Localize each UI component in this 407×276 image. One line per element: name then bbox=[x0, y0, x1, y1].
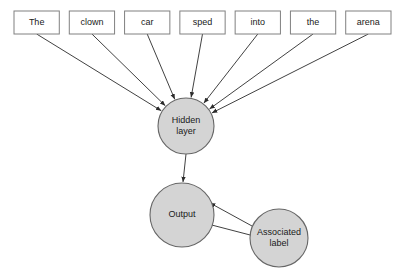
edge-hidden-to-output bbox=[183, 154, 186, 182]
word-box-label: the bbox=[307, 17, 320, 27]
word-box-arena-6[interactable]: arena bbox=[346, 11, 391, 34]
word-box-label: arena bbox=[357, 17, 380, 27]
node-associated-label[interactable]: Associatedlabel bbox=[250, 209, 308, 267]
node-label-line: Hidden bbox=[172, 115, 201, 125]
edge-into-to-hidden bbox=[204, 34, 258, 103]
word-box-sped-3[interactable]: sped bbox=[180, 11, 225, 34]
word-box-clown-1[interactable]: clown bbox=[69, 11, 114, 34]
node-label-line: Associated bbox=[257, 227, 301, 237]
edge-the-to-hidden bbox=[37, 34, 162, 111]
word-boxes-group: Theclowncarspedintothearena bbox=[14, 11, 391, 34]
node-label-line: Output bbox=[168, 209, 196, 219]
word-box-label: clown bbox=[80, 17, 103, 27]
word-box-label: car bbox=[141, 17, 154, 27]
edge-sped-to-hidden bbox=[191, 34, 202, 97]
edge-label-to-output-upper bbox=[210, 203, 252, 226]
word-box-label: The bbox=[29, 17, 45, 27]
word-box-label: sped bbox=[193, 17, 213, 27]
edge-car-to-hidden bbox=[147, 34, 175, 99]
diagram-svg: Theclowncarspedintothearena HiddenlayerO… bbox=[0, 0, 407, 276]
node-output[interactable]: Output bbox=[150, 183, 214, 247]
edge-arena-to-hidden bbox=[212, 34, 368, 113]
diagram-canvas: Theclowncarspedintothearena HiddenlayerO… bbox=[0, 0, 407, 276]
edge-the2-to-hidden bbox=[209, 34, 313, 109]
edge-clown-to-hidden bbox=[92, 34, 165, 106]
word-box-the-0[interactable]: The bbox=[14, 11, 59, 34]
word-box-car-2[interactable]: car bbox=[125, 11, 170, 34]
node-hidden-layer[interactable]: Hiddenlayer bbox=[158, 98, 214, 154]
word-box-label: into bbox=[251, 17, 266, 27]
word-box-into-4[interactable]: into bbox=[235, 11, 280, 34]
nodes-group: HiddenlayerOutputAssociatedlabel bbox=[150, 98, 308, 267]
node-label-line: label bbox=[269, 238, 288, 248]
word-box-the-5[interactable]: the bbox=[290, 11, 335, 34]
node-label-line: layer bbox=[176, 126, 196, 136]
